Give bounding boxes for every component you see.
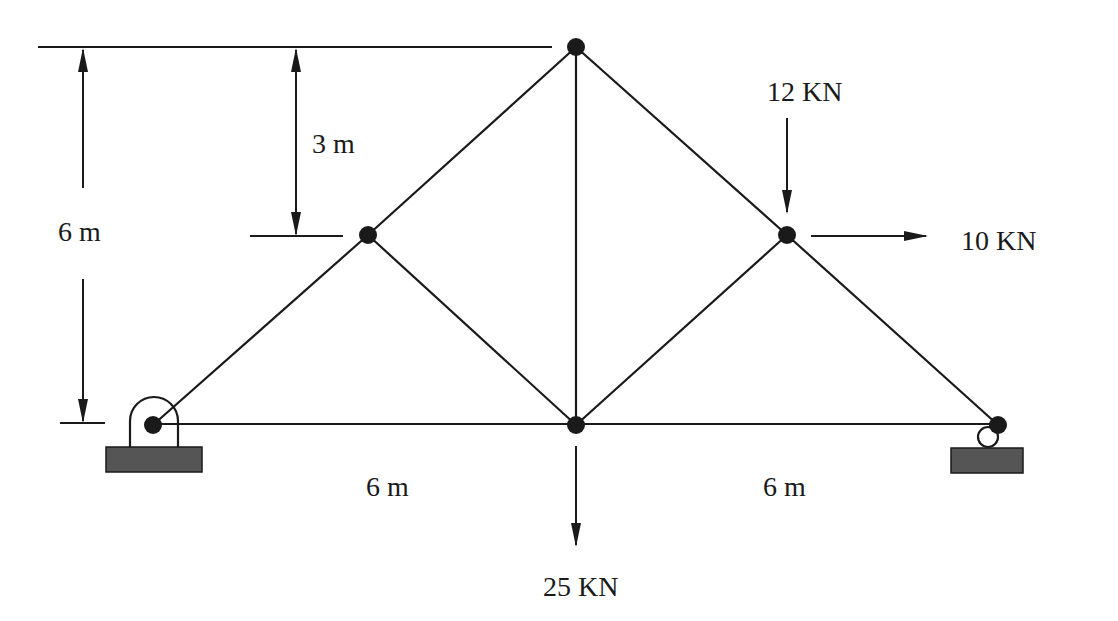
joint-E [778, 226, 796, 244]
truss-diagram: 6 m 3 m 6 m 6 m 12 KN 10 KN 25 KN [0, 0, 1118, 621]
label-load-10kn: 10 KN [961, 225, 1036, 256]
label-load-25kn: 25 KN [543, 571, 618, 602]
roller-support [951, 427, 1023, 473]
joint-C [567, 38, 585, 56]
joint-F [989, 416, 1007, 434]
load-arrows [576, 118, 926, 545]
labels: 6 m 3 m 6 m 6 m 12 KN 10 KN 25 KN [58, 76, 1036, 602]
pin-support [106, 397, 202, 472]
joint-D [567, 416, 585, 434]
member-BC [368, 47, 576, 235]
member-BD [368, 235, 576, 425]
member-EF [787, 235, 998, 425]
pin-support-base [106, 447, 202, 472]
roller-support-base [951, 448, 1023, 473]
label-right-span: 6 m [763, 471, 806, 502]
joint-A [144, 416, 162, 434]
member-CE [576, 47, 787, 235]
label-left-span: 6 m [366, 471, 409, 502]
label-load-12kn: 12 KN [767, 76, 842, 107]
member-DE [576, 235, 787, 425]
joint-B [359, 226, 377, 244]
label-total-height: 6 m [58, 216, 101, 247]
member-AB [153, 235, 368, 425]
label-upper-height: 3 m [312, 128, 355, 159]
dimension-lines [38, 47, 552, 423]
